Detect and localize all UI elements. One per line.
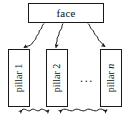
edge-face-to-pillar-n — [88, 24, 105, 47]
face-node[interactable]: face — [28, 3, 104, 23]
edge-pillar-1-to-pillar-2 — [22, 109, 49, 111]
pillar-node-2[interactable]: pillar 2 — [46, 49, 68, 107]
pillar-node-2-label: pillar 2 — [52, 64, 62, 93]
ellipsis-placeholder: ... — [74, 71, 100, 85]
edge-pillar-2-to-pillar-n — [62, 109, 107, 111]
pillar-node-n[interactable]: pillar n — [100, 49, 122, 107]
diagram-canvas: face pillar 1 pillar 2 pillar n ... — [0, 0, 132, 121]
pillar-node-n-label: pillar n — [106, 64, 116, 93]
face-node-label: face — [56, 8, 75, 19]
edge-face-to-pillar-2 — [56, 24, 63, 48]
pillar-node-1[interactable]: pillar 1 — [8, 49, 30, 107]
pillar-node-1-label: pillar 1 — [14, 64, 24, 93]
edge-face-to-pillar-1 — [24, 24, 44, 48]
